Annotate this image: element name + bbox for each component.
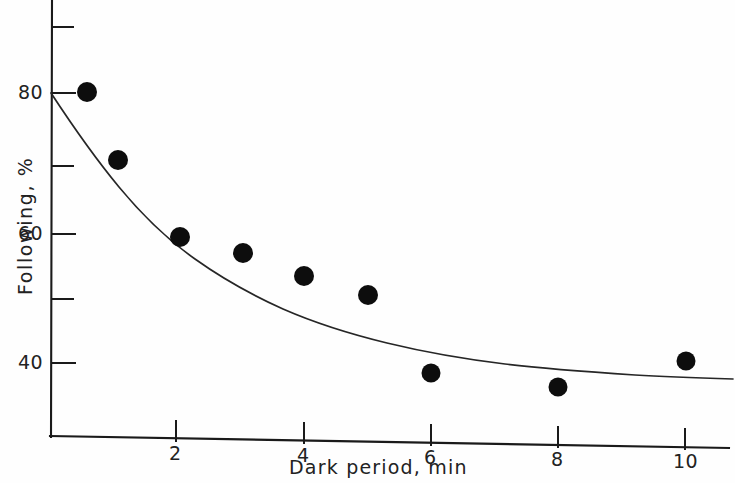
data-point (170, 227, 190, 247)
plot-area (0, 0, 735, 483)
data-point (549, 378, 568, 397)
y-tick-label-80: 80 (18, 81, 43, 103)
x-tick-label-2: 2 (169, 442, 182, 464)
data-point (422, 364, 441, 383)
y-tick-label-40: 40 (18, 351, 43, 373)
data-point (677, 352, 696, 371)
figure-panel: 80 60 40 2 4 6 8 10 Following, % Dark pe… (0, 0, 735, 483)
data-point (233, 243, 253, 263)
y-axis-label: Following, % (14, 157, 36, 295)
x-tick-label-8: 8 (551, 448, 564, 470)
y-axis-line (51, 0, 52, 437)
data-point (294, 266, 314, 286)
data-point (77, 82, 97, 102)
data-point (358, 285, 378, 305)
x-axis-label: Dark period, min (289, 456, 468, 478)
x-tick-label-10: 10 (673, 450, 698, 472)
x-axis-line (50, 436, 729, 448)
fit-curve (51, 93, 733, 379)
data-point (108, 150, 128, 170)
